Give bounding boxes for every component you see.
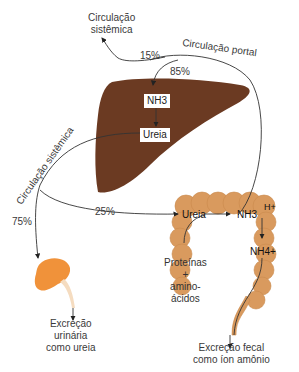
- ureia-gut-label: Ureia: [182, 209, 206, 220]
- pct-15: 15%: [140, 50, 160, 62]
- nh3-liver-box: NH3: [144, 94, 170, 108]
- pct-25: 25%: [95, 206, 115, 218]
- fecal-label: Excreção fecal como íon amônio: [193, 342, 270, 366]
- liver-shape: [95, 78, 249, 192]
- nh3-gut-label: NH3: [237, 209, 257, 220]
- h-plus-label: H+: [264, 202, 276, 212]
- proteins-label: Proteínas + amino- ácidos: [164, 257, 207, 305]
- systemic-top-label: Circulação sistêmica: [88, 12, 135, 36]
- urinary-label: Excreção urinária como ureia: [46, 318, 95, 354]
- nh4-label: NH4+: [250, 246, 276, 257]
- ureia-liver-box: Ureia: [140, 128, 170, 142]
- pct-85: 85%: [170, 66, 190, 78]
- pct-75: 75%: [12, 216, 32, 228]
- ureter-shape: [60, 279, 75, 308]
